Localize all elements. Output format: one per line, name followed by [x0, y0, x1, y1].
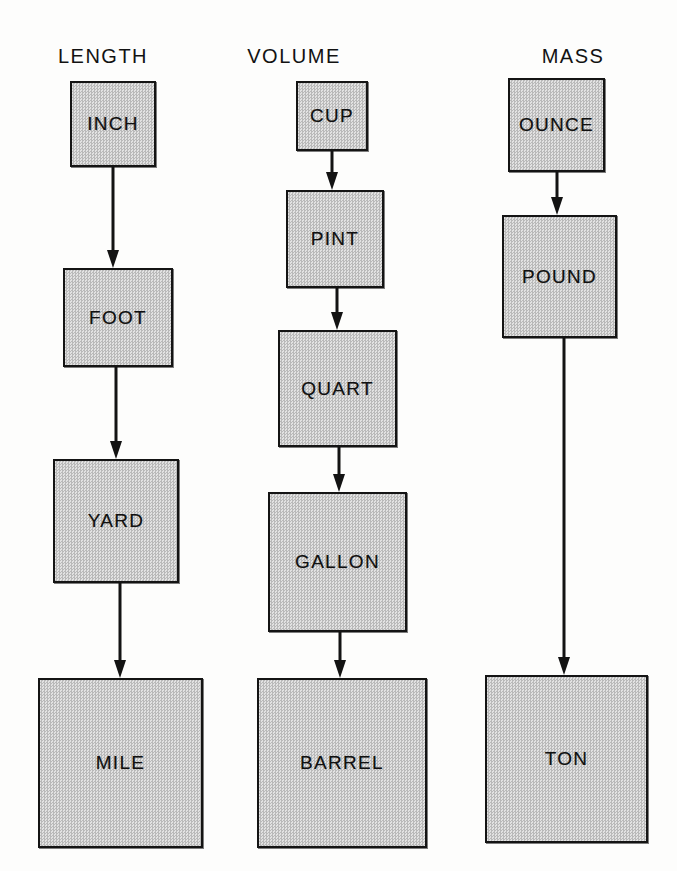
unit-box-inch[interactable]: INCH	[70, 81, 156, 167]
unit-label-yard: YARD	[88, 510, 145, 532]
arrow-length-1	[104, 367, 128, 459]
unit-box-cup[interactable]: CUP	[296, 81, 368, 151]
unit-label-mile: MILE	[96, 752, 146, 774]
diagram-canvas: LENGTHINCHFOOTYARDMILEVOLUMECUPPINTQUART…	[0, 0, 677, 871]
arrow-length-0	[101, 167, 125, 268]
unit-label-pint: PINT	[311, 228, 359, 250]
unit-label-ounce: OUNCE	[519, 114, 594, 136]
unit-box-barrel[interactable]: BARREL	[257, 678, 427, 848]
unit-label-gallon: GALLON	[295, 551, 380, 573]
unit-label-foot: FOOT	[89, 307, 147, 329]
unit-box-pint[interactable]: PINT	[286, 190, 384, 288]
unit-label-ton: TON	[545, 748, 589, 770]
column-header-length: LENGTH	[58, 45, 148, 68]
unit-box-ounce[interactable]: OUNCE	[508, 78, 605, 172]
unit-label-barrel: BARREL	[300, 752, 384, 774]
unit-box-ton[interactable]: TON	[485, 675, 648, 843]
unit-box-pound[interactable]: POUND	[502, 215, 617, 338]
unit-label-pound: POUND	[522, 266, 597, 288]
unit-box-quart[interactable]: QUART	[278, 330, 397, 447]
unit-box-yard[interactable]: YARD	[53, 459, 179, 583]
unit-box-gallon[interactable]: GALLON	[268, 492, 407, 632]
arrow-volume-2	[327, 447, 351, 492]
arrow-volume-3	[328, 632, 352, 678]
arrow-mass-1	[552, 338, 576, 675]
arrow-volume-1	[325, 288, 349, 330]
unit-label-cup: CUP	[310, 105, 354, 127]
column-header-mass: MASS	[542, 45, 605, 68]
unit-box-foot[interactable]: FOOT	[63, 268, 173, 367]
unit-box-mile[interactable]: MILE	[38, 678, 203, 848]
arrow-length-2	[108, 583, 132, 678]
arrow-volume-0	[320, 151, 344, 190]
unit-label-quart: QUART	[301, 378, 374, 400]
column-header-volume: VOLUME	[247, 45, 340, 68]
arrow-mass-0	[545, 172, 569, 215]
unit-label-inch: INCH	[87, 113, 139, 135]
